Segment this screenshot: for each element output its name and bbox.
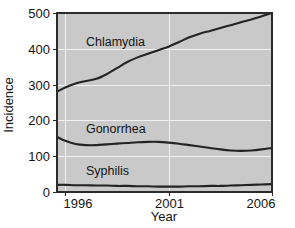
x-tick-label: 1996 bbox=[64, 196, 93, 211]
y-tick-label: 300 bbox=[28, 78, 50, 93]
y-tick-label: 100 bbox=[28, 149, 50, 164]
series-label-gonorrhea: Gonorrhea bbox=[86, 122, 146, 136]
y-axis-title: Incidence bbox=[1, 77, 16, 133]
sti-incidence-line-chart: 0100200300400500 199620012006 ChlamydiaG… bbox=[0, 0, 295, 228]
x-axis-title: Year bbox=[151, 209, 178, 224]
y-tick-label: 500 bbox=[28, 6, 50, 21]
series-label-chlamydia: Chlamydia bbox=[86, 35, 145, 49]
y-tick-label: 200 bbox=[28, 113, 50, 128]
series-label-syphilis: Syphilis bbox=[86, 164, 129, 178]
chart-canvas: 0100200300400500 199620012006 ChlamydiaG… bbox=[0, 0, 295, 228]
y-tick-label: 400 bbox=[28, 42, 50, 57]
y-tick-label: 0 bbox=[43, 185, 50, 200]
x-tick-label: 2006 bbox=[247, 196, 276, 211]
